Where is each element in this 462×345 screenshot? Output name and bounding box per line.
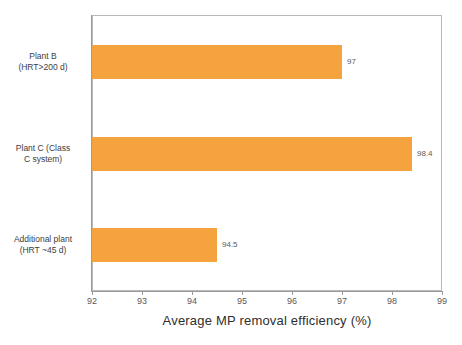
bar xyxy=(92,228,217,262)
bar-value-label: 98.4 xyxy=(417,150,433,158)
x-axis-tick-mark xyxy=(292,291,293,295)
bar xyxy=(92,45,342,79)
category-axis-line xyxy=(91,291,443,292)
category-label-line: C system) xyxy=(0,154,86,165)
bar-value-label: 97 xyxy=(347,58,356,66)
bar-value-label: 94.5 xyxy=(222,241,238,249)
x-axis-tick-mark xyxy=(342,291,343,295)
x-axis-tick-mark xyxy=(192,291,193,295)
x-axis-tick-label: 93 xyxy=(137,296,147,306)
category-label: Additional plant(HRT ~45 d) xyxy=(0,234,86,256)
x-axis-tick-label: 94 xyxy=(187,296,197,306)
x-axis-tick-label: 97 xyxy=(337,296,347,306)
category-label: Plant C (ClassC system) xyxy=(0,143,86,165)
x-axis-tick-label: 99 xyxy=(437,296,447,306)
category-label-line: Plant B xyxy=(0,51,86,62)
category-label-line: Plant C (Class xyxy=(0,143,86,154)
x-axis-tick-label: 92 xyxy=(87,296,97,306)
x-axis-tick-label: 95 xyxy=(237,296,247,306)
x-axis-tick-mark xyxy=(442,291,443,295)
x-axis-tick-label: 98 xyxy=(387,296,397,306)
category-label-line: Additional plant xyxy=(0,234,86,245)
x-axis-tick-mark xyxy=(392,291,393,295)
x-axis-tick-mark xyxy=(92,291,93,295)
x-axis-tick-label: 96 xyxy=(287,296,297,306)
category-label-line: (HRT ~45 d) xyxy=(0,245,86,256)
bar xyxy=(92,137,412,171)
x-axis-tick-mark xyxy=(142,291,143,295)
x-axis-tick-mark xyxy=(242,291,243,295)
x-axis-title: Average MP removal efficiency (%) xyxy=(92,313,442,328)
category-label-line: (HRT>200 d) xyxy=(0,62,86,73)
bar-chart: 9798.494.5 Plant B(HRT>200 d)Plant C (Cl… xyxy=(0,0,462,345)
category-label: Plant B(HRT>200 d) xyxy=(0,51,86,73)
